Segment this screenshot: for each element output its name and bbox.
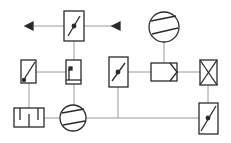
- top-damper-icon: [64, 11, 84, 41]
- filter-icon: [21, 60, 36, 83]
- heat-exchanger-icon: [151, 63, 177, 81]
- top-fan-icon: [149, 12, 179, 42]
- humidifier-icon: [14, 108, 44, 127]
- sensor-icon: [66, 60, 81, 84]
- cross-box-icon: [200, 60, 217, 85]
- hvac-diagram: [0, 0, 231, 143]
- bottom-fan-icon: [60, 105, 86, 131]
- exhaust-arrow-icon: [25, 22, 33, 30]
- bottom-right-damper-icon: [199, 103, 218, 134]
- middle-damper-icon: [109, 57, 128, 87]
- intake-arrow-icon: [112, 22, 120, 30]
